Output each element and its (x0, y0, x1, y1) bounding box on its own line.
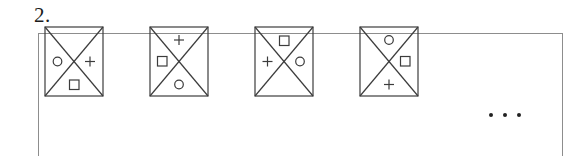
sequence-continues-ellipsis (489, 113, 521, 117)
figure-4-top-circle-symbol (385, 36, 394, 45)
figure-3 (254, 26, 314, 97)
figure-slot-1 (44, 26, 149, 97)
ellipsis-dot (503, 113, 507, 117)
figure-3-right-circle-symbol (296, 57, 305, 66)
figure-3-left-plus-symbol (263, 57, 273, 67)
figure-2-left-square-symbol (158, 57, 168, 67)
figure-slot-4 (359, 26, 464, 97)
ellipsis-dot (517, 113, 521, 117)
figure-slot-2 (149, 26, 254, 97)
figure-1 (44, 26, 104, 97)
figure-sequence (44, 26, 464, 97)
figure-2-top-plus-symbol (174, 35, 184, 45)
figure-1-bottom-square-symbol (70, 80, 80, 90)
figure-4-bottom-plus-symbol (384, 80, 394, 90)
figure-2 (149, 26, 209, 97)
worksheet-page: 2. (0, 0, 585, 156)
figure-1-right-plus-symbol (85, 57, 95, 67)
figure-3-top-square-symbol (280, 36, 290, 46)
figure-slot-3 (254, 26, 359, 97)
figure-4 (359, 26, 419, 97)
ellipsis-dot (489, 113, 493, 117)
figure-4-right-square-symbol (401, 57, 411, 67)
figure-2-bottom-circle-symbol (175, 80, 184, 89)
item-number-label: 2. (34, 2, 51, 28)
figure-1-left-circle-symbol (53, 57, 62, 66)
